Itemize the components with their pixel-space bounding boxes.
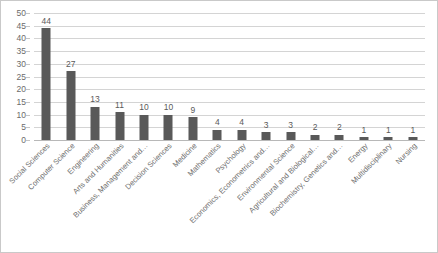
- bar[interactable]: [359, 137, 368, 140]
- x-axis-category-label: Nursing: [394, 142, 418, 166]
- y-axis-tick-mark: [26, 51, 30, 52]
- y-axis-tick-label: 45: [17, 21, 26, 30]
- bar-chart-figure: 50454035302520151050 4427131110109443322…: [0, 0, 438, 253]
- y-axis-tick-mark: [26, 127, 30, 128]
- bar[interactable]: [164, 115, 173, 140]
- bar[interactable]: [188, 117, 197, 140]
- bar-value-label: 10: [139, 103, 148, 112]
- bar-value-label: 27: [66, 60, 75, 69]
- bar[interactable]: [139, 115, 148, 140]
- y-axis-tick-mark: [26, 26, 30, 27]
- bar-value-label: 13: [90, 95, 99, 104]
- bar-slot: 2: [327, 13, 351, 140]
- bar-slot: 1: [352, 13, 376, 140]
- bar-slot: 13: [83, 13, 107, 140]
- bar-value-label: 3: [264, 121, 269, 130]
- y-axis: 50454035302520151050: [1, 13, 30, 140]
- bar-slot: 11: [107, 13, 131, 140]
- bar-value-label: 1: [386, 126, 391, 135]
- bar-slot: 4: [230, 13, 254, 140]
- bar-value-label: 1: [410, 126, 415, 135]
- bar-value-label: 3: [288, 121, 293, 130]
- y-axis-tick-mark: [26, 140, 30, 141]
- bar[interactable]: [384, 137, 393, 140]
- bar-slot: 44: [34, 13, 58, 140]
- bar-value-label: 44: [41, 17, 50, 26]
- y-axis-tick-mark: [26, 89, 30, 90]
- bar-slot: 10: [132, 13, 156, 140]
- bar-value-label: 2: [313, 123, 318, 132]
- y-axis-tick-label: 30: [17, 60, 26, 69]
- y-axis-tick-mark: [26, 38, 30, 39]
- y-axis-tick-label: 10: [17, 110, 26, 119]
- bar-value-label: 2: [337, 123, 342, 132]
- x-axis-category-labels: Social SciencesComputer ScienceEngineeri…: [34, 142, 425, 252]
- bar-slot: 2: [303, 13, 327, 140]
- y-axis-tick-label: 20: [17, 85, 26, 94]
- bar-slot: 27: [58, 13, 82, 140]
- bar[interactable]: [91, 107, 100, 140]
- y-axis-tick-mark: [26, 64, 30, 65]
- bar[interactable]: [335, 135, 344, 140]
- bar-value-label: 4: [239, 118, 244, 127]
- bar-value-label: 10: [164, 103, 173, 112]
- bar-slot: 9: [181, 13, 205, 140]
- y-axis-tick-mark: [26, 77, 30, 78]
- bar-slot: 3: [254, 13, 278, 140]
- bar[interactable]: [408, 137, 417, 140]
- y-axis-tick-mark: [26, 13, 30, 14]
- bar-slot: 1: [376, 13, 400, 140]
- bar-value-label: 4: [215, 118, 220, 127]
- axis-baseline: [34, 140, 425, 141]
- bar-slot: 3: [278, 13, 302, 140]
- y-axis-tick-label: 15: [17, 98, 26, 107]
- x-axis-category-label: Decision Sciences: [125, 142, 174, 191]
- y-axis-tick-label: 50: [17, 9, 26, 18]
- bar-value-label: 9: [190, 106, 195, 115]
- y-axis-tick-label: 40: [17, 34, 26, 43]
- bars-layer: 4427131110109443322111: [34, 13, 425, 140]
- bar-value-label: 1: [362, 126, 367, 135]
- bar[interactable]: [262, 132, 271, 140]
- bar-slot: 1: [401, 13, 425, 140]
- bar[interactable]: [237, 130, 246, 140]
- y-axis-tick-mark: [26, 102, 30, 103]
- y-axis-tick-label: 25: [17, 72, 26, 81]
- bar[interactable]: [286, 132, 295, 140]
- bar[interactable]: [115, 112, 124, 140]
- y-axis-tick-label: 35: [17, 47, 26, 56]
- bar-value-label: 11: [115, 101, 124, 110]
- bar[interactable]: [213, 130, 222, 140]
- bar[interactable]: [311, 135, 320, 140]
- bar[interactable]: [66, 71, 75, 140]
- y-axis-tick-mark: [26, 115, 30, 116]
- bar[interactable]: [42, 28, 51, 140]
- bar-slot: 4: [205, 13, 229, 140]
- bar-slot: 10: [156, 13, 180, 140]
